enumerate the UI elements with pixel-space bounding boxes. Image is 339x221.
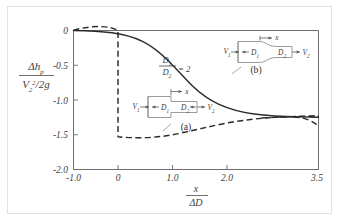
- x-axis-label: x ΔD: [186, 183, 208, 208]
- figure-root: 0 -0.5 -1.0 -1.5 -2.0 -1.0 0 1.0 2.0 3.5…: [0, 0, 339, 221]
- y-axis-label: Δhp V22/2g: [19, 60, 54, 93]
- curve-label-a-group: (a): [163, 121, 191, 133]
- inset-b-d2-label: D2: [277, 48, 286, 59]
- inset-a-v2-arrow-head: [202, 106, 205, 109]
- inset-b-v1-arrow-head: [236, 51, 239, 54]
- inset-a-d1-arrow-head: [152, 106, 155, 109]
- inset-b-d1-label: D1: [250, 48, 259, 59]
- curve-label-b-group: (b): [232, 64, 262, 76]
- x-axis-numerator: x: [193, 183, 199, 194]
- y-axis-denominator: V22/2g: [22, 78, 50, 93]
- inset-a-x-arrow-head: [179, 90, 182, 93]
- ratio-numerator: D1: [161, 55, 171, 67]
- y-tick-label-0: 0: [63, 26, 68, 36]
- y-tick-labels: 0 -0.5 -1.0 -1.5 -2.0: [53, 26, 68, 175]
- inset-gradual-contraction: x V1 D1 D2 V2: [223, 33, 310, 63]
- y-axis-numerator: Δhp: [27, 60, 44, 76]
- y-tick-label-2: -1.0: [53, 96, 68, 106]
- inset-a-x-label: x: [184, 87, 189, 96]
- curve-label-b: (b): [250, 64, 261, 76]
- inset-sudden-contraction: x V1 D1 D2 V2: [132, 87, 215, 118]
- inset-b-v2-label: V2: [302, 48, 310, 59]
- curve-a-leader-line: [163, 124, 171, 131]
- inset-a-v2-label: V2: [207, 103, 215, 114]
- inset-a-v1-arrow-head: [146, 106, 149, 109]
- inset-a-d2-arrow-head: [190, 106, 193, 109]
- inset-b-v1-label: V1: [223, 47, 231, 58]
- x-tick-label-3: 2.0: [221, 173, 233, 183]
- x-tick-label-4: 3.5: [310, 173, 323, 183]
- inset-a-v1-label: V1: [132, 102, 140, 113]
- x-tick-labels: -1.0 0 1.0 2.0 3.5: [66, 173, 323, 183]
- curve-label-a: (a): [181, 121, 192, 133]
- inset-b-x-arrow: x: [260, 33, 279, 42]
- inset-a-x-arrow: x: [171, 87, 189, 96]
- inset-a-d2-label: D2: [180, 103, 189, 114]
- ratio-denominator: D2: [161, 67, 171, 79]
- chart-canvas: 0 -0.5 -1.0 -1.5 -2.0 -1.0 0 1.0 2.0 3.5…: [0, 0, 339, 221]
- curve-a-sudden-contraction: [74, 27, 319, 138]
- x-tick-label-1: 0: [116, 173, 121, 183]
- inset-b-x-label: x: [274, 33, 279, 42]
- inset-b-x-arrow-head: [269, 36, 273, 39]
- y-tick-label-3: -1.5: [53, 130, 68, 140]
- y-tick-label-1: -0.5: [53, 61, 68, 71]
- curve-b-gradual-contraction: [74, 31, 319, 118]
- y-tick-marks: [74, 31, 79, 170]
- x-tick-label-0: -1.0: [66, 173, 81, 183]
- inset-a-d1-label: D1: [160, 103, 169, 114]
- x-tick-label-2: 1.0: [167, 173, 179, 183]
- x-tick-marks: [74, 165, 319, 170]
- inset-b-d1-arrow-head: [242, 51, 245, 54]
- inset-b-v2-arrow-head: [297, 51, 300, 54]
- curve-b-leader-line: [232, 67, 241, 74]
- x-axis-denominator: ΔD: [188, 197, 203, 208]
